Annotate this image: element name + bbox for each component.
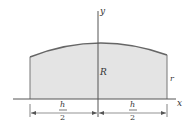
right-dim-denominator: 2	[130, 113, 135, 122]
right-dim-numerator: h	[130, 100, 135, 109]
arrow-icon	[92, 111, 97, 115]
arrow-icon	[99, 111, 104, 115]
arrow-icon	[161, 111, 166, 115]
left-dim-numerator: h	[60, 100, 65, 109]
x-axis-label: x	[177, 98, 182, 108]
left-dim-denominator: 2	[60, 113, 65, 122]
arrow-icon	[31, 111, 36, 115]
label-R: R	[99, 67, 107, 77]
diagram-canvas: y x R r h 2 h 2	[0, 0, 191, 127]
label-r: r	[170, 74, 175, 83]
y-axis-label: y	[99, 6, 106, 16]
